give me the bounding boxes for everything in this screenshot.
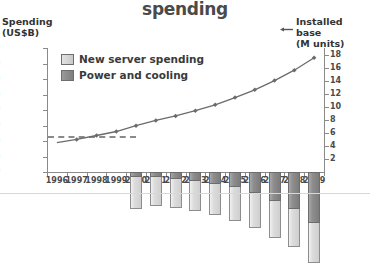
installed-base-line <box>57 58 314 143</box>
line-data-point-marker <box>74 137 79 142</box>
bottom-divider <box>0 193 370 194</box>
line-data-point-marker <box>233 95 238 100</box>
bar-segment <box>308 223 320 263</box>
line-data-point-marker <box>193 108 198 113</box>
line-data-point-marker <box>154 118 159 123</box>
bar-segment <box>249 193 261 228</box>
line-data-point-marker <box>253 88 258 93</box>
line-data-point-marker <box>213 103 218 108</box>
line-data-point-marker <box>173 114 178 119</box>
line-data-point-marker <box>272 78 277 83</box>
line-data-point-marker <box>94 133 99 138</box>
bar-segment <box>269 201 281 237</box>
line-data-point-marker <box>114 129 119 134</box>
line-data-point-marker <box>134 123 139 128</box>
bar-segment <box>288 209 300 247</box>
